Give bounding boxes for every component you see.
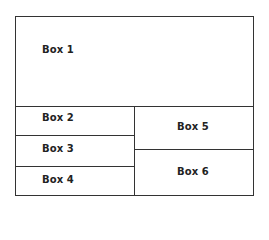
divider-box3-box4 xyxy=(15,166,135,167)
divider-box5-box6 xyxy=(134,149,254,150)
box-1-label: Box 1 xyxy=(42,44,74,55)
box-3-label: Box 3 xyxy=(42,143,74,154)
divider-box2-box3 xyxy=(15,135,135,136)
box-2-label: Box 2 xyxy=(42,112,74,123)
box-4-label: Box 4 xyxy=(42,174,74,185)
box-5-label: Box 5 xyxy=(177,121,209,132)
box-6-label: Box 6 xyxy=(177,166,209,177)
divider-column xyxy=(134,106,135,196)
